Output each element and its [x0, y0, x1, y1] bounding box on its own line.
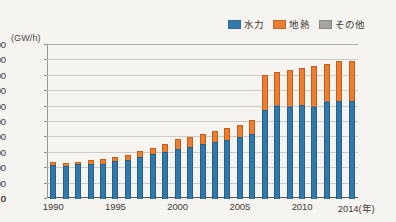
bar-stack — [212, 131, 218, 198]
bar-segment-hydro — [311, 107, 317, 199]
chart-legend: 水力地熱その他 — [228, 17, 365, 31]
chart-container: (GW/h) 水力地熱その他 0200040006000800010000120… — [0, 0, 396, 222]
y-axis-tickmark — [44, 136, 47, 137]
bar-stack — [112, 157, 118, 199]
bar-segment-hydro — [75, 164, 81, 199]
bar-stack — [50, 162, 56, 198]
bar-segment-hydro — [137, 157, 143, 199]
legend-entry-other: その他 — [319, 17, 366, 31]
bar-stack — [237, 125, 243, 198]
y-axis-tickmark — [44, 75, 47, 76]
bar-segment-hydro — [125, 160, 131, 199]
y-axis-tickmark — [44, 121, 47, 122]
legend-swatch-geo — [273, 20, 286, 29]
y-axis-tick-label: 14000 — [0, 85, 6, 96]
bar-stack — [88, 160, 94, 198]
y-axis-tick-label: 4000 — [0, 162, 6, 173]
bar-segment-geo — [249, 120, 255, 135]
y-axis-tickmark — [44, 152, 47, 153]
bar-segment-geo — [324, 64, 330, 103]
bar-segment-hydro — [274, 106, 280, 199]
bar-stack — [150, 148, 156, 198]
bar-stack — [137, 151, 143, 198]
bar-stack — [100, 159, 106, 198]
bar-segment-hydro — [249, 134, 255, 199]
legend-entry-hydro: 水力 — [228, 17, 264, 31]
y-axis-tick-label-zero: 0 — [0, 193, 6, 204]
y-axis-tick-label: 16000 — [0, 69, 6, 80]
bar-segment-geo — [349, 61, 355, 103]
y-axis-tick-label: 6000 — [0, 146, 6, 157]
bar-segment-geo — [299, 68, 305, 106]
bar-stack — [162, 144, 168, 198]
bar-segment-hydro — [187, 147, 193, 199]
gridline — [47, 44, 358, 45]
x-axis-tick-label: 1990 — [43, 201, 64, 212]
bar-segment-hydro — [63, 166, 69, 199]
bar-segment-hydro — [212, 142, 218, 199]
plot-area: 0200040006000800010000120001400016000180… — [47, 44, 358, 198]
x-axis-tick-label: 2014(年) — [338, 201, 375, 215]
y-axis-tickmark — [44, 59, 47, 60]
bar-segment-hydro — [200, 144, 206, 199]
x-axis-tick-label: 1995 — [105, 201, 126, 212]
bar-stack — [262, 75, 268, 198]
bar-stack — [324, 64, 330, 198]
bar-segment-geo — [311, 66, 317, 107]
y-axis-tickmark — [44, 44, 47, 45]
bar-stack — [75, 162, 81, 198]
bar-stack — [187, 137, 193, 198]
bar-segment-hydro — [224, 140, 230, 199]
bar-segment-geo — [237, 125, 243, 139]
bar-segment-hydro — [88, 164, 94, 199]
bar-segment-hydro — [162, 152, 168, 199]
bar-segment-hydro — [150, 154, 156, 199]
y-axis-tickmark — [44, 198, 47, 199]
bar-segment-hydro — [299, 105, 305, 199]
y-axis-tick-label: 10000 — [0, 116, 6, 127]
legend-label-geo: 地熱 — [289, 17, 309, 31]
y-axis-tick-label: 18000 — [0, 54, 6, 65]
y-axis-tickmark — [44, 167, 47, 168]
bar-segment-hydro — [175, 149, 181, 199]
legend-label-other: その他 — [335, 17, 366, 31]
bar-segment-geo — [262, 75, 268, 111]
y-axis-tickmark — [44, 106, 47, 107]
bar-stack — [224, 128, 230, 198]
bar-stack — [349, 61, 355, 198]
gridline — [47, 59, 358, 60]
bar-segment-hydro — [262, 110, 268, 199]
bar-segment-geo — [274, 72, 280, 107]
bar-segment-hydro — [50, 165, 56, 199]
bar-segment-hydro — [100, 164, 106, 199]
bar-stack — [175, 139, 181, 198]
bar-stack — [63, 163, 69, 198]
legend-label-hydro: 水力 — [244, 17, 264, 31]
y-axis-tick-label: 8000 — [0, 131, 6, 142]
bar-segment-hydro — [324, 102, 330, 199]
legend-swatch-hydro — [228, 20, 241, 29]
x-axis-tick-label: 2005 — [229, 201, 250, 212]
y-axis-unit-label: (GW/h) — [11, 33, 41, 43]
y-axis-tickmark — [44, 90, 47, 91]
legend-entry-geo: 地熱 — [273, 17, 309, 31]
x-axis-tick-label: 2010 — [292, 201, 313, 212]
x-axis-tick-label: 2000 — [167, 201, 188, 212]
legend-swatch-other — [319, 20, 332, 29]
bar-stack — [311, 66, 317, 198]
y-axis-tick-label: 2000 — [0, 177, 6, 188]
bar-stack — [249, 120, 255, 198]
bar-segment-hydro — [237, 137, 243, 199]
y-axis-tick-label: 12000 — [0, 100, 6, 111]
bar-segment-hydro — [287, 107, 293, 199]
bar-stack — [336, 61, 342, 198]
bar-stack — [299, 68, 305, 198]
bar-stack — [274, 72, 280, 198]
bar-stack — [200, 134, 206, 198]
bar-segment-geo — [287, 70, 293, 107]
bar-stack — [287, 70, 293, 198]
bar-segment-geo — [336, 61, 342, 102]
bar-stack — [125, 155, 131, 198]
bar-segment-hydro — [336, 101, 342, 199]
y-axis-tickmark — [44, 183, 47, 184]
